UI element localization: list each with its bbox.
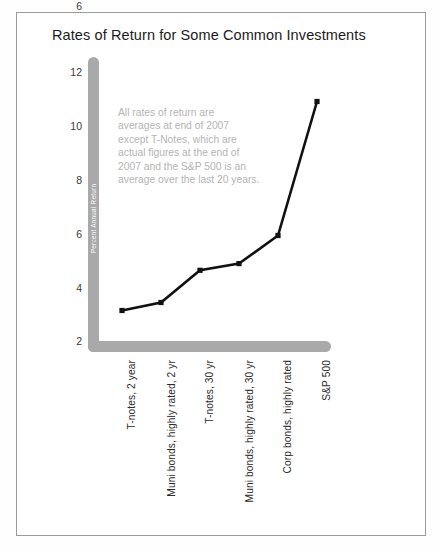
x-tick-label-1: Muni bonds, highly rated, 2 yr	[166, 360, 177, 497]
data-point-marker-1	[158, 300, 163, 305]
x-tick-label-5: S&P 500	[321, 360, 332, 401]
data-series-plot	[0, 0, 442, 550]
x-tick-label-2: T-notes, 30 yr	[204, 360, 215, 424]
data-point-marker-3	[236, 261, 241, 266]
data-point-marker-2	[197, 268, 202, 273]
series-line	[122, 102, 317, 311]
data-point-marker-0	[119, 308, 124, 313]
data-point-marker-5	[314, 99, 319, 104]
chart-figure: Rates of Return for Some Common Investme…	[0, 0, 442, 550]
data-point-marker-4	[275, 233, 280, 238]
x-tick-label-3: Muni bonds, highly rated, 30 yr	[244, 360, 255, 502]
x-tick-label-4: Corp bonds, highly rated	[282, 360, 293, 473]
x-tick-label-0: T-notes, 2 year	[126, 360, 137, 429]
series-markers	[119, 99, 319, 313]
